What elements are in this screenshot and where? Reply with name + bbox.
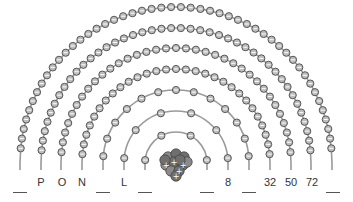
electron-icon [296,64,303,71]
electron-icon [163,66,170,73]
electron-icon [316,97,323,104]
electron-icon [206,29,213,36]
electron-icon [107,65,114,72]
electron-icon [121,155,128,162]
electron-icon [265,141,272,148]
electron-icon [262,131,269,138]
electron-icon [224,155,231,162]
electron-icon [80,141,87,148]
shell-label: N [70,176,94,188]
electron-icon [138,7,145,14]
electron-icon [182,66,189,73]
atom-shell-diagram: +++++ [0,0,353,202]
electron-icon [236,90,243,97]
electron-icon [202,70,209,77]
electron-icon [242,44,249,51]
electron-icon [197,5,204,12]
electron-icon [129,10,136,17]
electron-icon [162,45,169,52]
electron-icon [177,24,184,31]
electron-icon [102,97,109,104]
electron-icon [85,85,92,92]
electron-icon [17,145,24,152]
electron-icon [228,84,235,91]
electron-icon [289,92,296,99]
electron-icon [153,67,160,74]
electron-icon [202,48,209,55]
electron-icon [272,68,279,75]
electron-icon [100,153,107,160]
electron-icon [112,119,119,126]
electron-icon [168,24,175,31]
electron-icon [103,44,110,51]
electron-icon [188,110,195,117]
electron-icon [86,122,93,129]
electron-icon [177,3,184,10]
electron-icon [61,83,68,90]
electron-icon [29,97,36,104]
shell-label: L [112,176,136,188]
electron-icon [246,71,253,78]
electron-icon [286,139,293,146]
electron-icon [249,105,256,112]
electron-icon [287,149,294,156]
electron-icon [283,129,290,136]
electron-icon [85,30,92,37]
electron-icon [187,25,194,32]
electron-icon [192,46,199,53]
electron-icon [139,29,146,36]
electron-icon [280,119,287,126]
electron-icon [233,39,240,46]
electron-icon [265,61,272,68]
electron-icon [68,110,75,117]
electron-icon [26,107,33,114]
electron-icon [301,118,308,125]
electron-icon [221,55,228,62]
electron-icon [311,89,318,96]
electron-icon [243,97,250,104]
electron-icon [129,31,136,38]
electron-icon [306,137,313,144]
electron-icon [243,20,250,27]
electron-icon [304,128,311,135]
blank-answer-line [138,192,152,193]
electron-icon [124,55,131,62]
electron-icon [294,100,301,107]
electron-icon [187,4,194,11]
electron-icon [134,74,141,81]
electron-icon [322,116,329,123]
electron-icon [241,135,248,142]
electron-icon [158,25,165,32]
electron-icon [133,51,140,58]
electron-icon [67,76,74,83]
electron-icon [172,86,179,93]
electron-icon [96,105,103,112]
electron-icon [258,55,265,62]
electron-icon [99,71,106,78]
electron-icon [125,78,132,85]
electron-icon [230,60,237,67]
electron-icon [250,49,257,56]
shell-label: 72 [300,176,324,188]
electron-icon [153,46,160,53]
electron-icon [158,132,165,139]
electron-icon [43,72,50,79]
electron-icon [143,70,150,77]
electron-icon [91,78,98,85]
electron-icon [79,151,86,158]
electron-icon [259,122,266,129]
electron-icon [65,119,72,126]
electron-icon [213,127,220,134]
blank-answer-line [96,192,110,193]
electron-icon [62,129,69,136]
electron-icon [44,118,51,125]
electron-icon [115,60,122,67]
electron-icon [266,93,273,100]
electron-icon [49,64,56,71]
electron-icon [120,35,127,42]
electron-icon [93,25,100,32]
electron-icon [73,101,80,108]
electron-icon [238,65,245,72]
electron-icon [172,65,179,72]
electron-icon [110,16,117,23]
